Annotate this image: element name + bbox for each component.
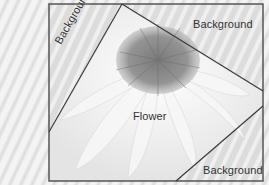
label-background-top-right: Background [193,18,253,30]
label-background-bottom-right: Background [203,164,263,176]
label-flower: Flower [133,110,167,122]
